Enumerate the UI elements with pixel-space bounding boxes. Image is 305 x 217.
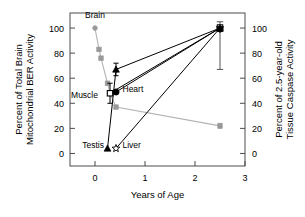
y-tick-label-left: 80 xyxy=(54,49,64,59)
x-tick-label: 0 xyxy=(92,173,97,183)
y-tick-label-right: 100 xyxy=(252,24,267,34)
y-tick-label-left: 60 xyxy=(54,74,64,84)
data-point-brain xyxy=(97,47,101,51)
series-label-brain: Brain xyxy=(85,10,105,20)
data-point-testis xyxy=(113,66,120,72)
y-axis-title-left-line2: Mitochondrial BER Activity xyxy=(24,34,35,145)
y-tick-label-right: 60 xyxy=(252,74,262,84)
data-point-heart xyxy=(113,89,119,95)
data-point-endpoint-heart xyxy=(217,26,223,32)
data-point-testis xyxy=(104,145,111,151)
y-tick-label-left: 40 xyxy=(54,99,64,109)
x-tick-label: 1 xyxy=(142,173,147,183)
scatter-plot: 0123Years of Age020406080100Percent of T… xyxy=(0,0,305,217)
data-point-muscle xyxy=(107,91,112,96)
data-point-brain xyxy=(93,26,98,31)
series-label-liver: Liver xyxy=(123,140,142,150)
data-point-brain xyxy=(218,124,222,128)
data-point-brain xyxy=(99,56,103,60)
y-axis-title-right-line1: Percent of 2.5-year-old xyxy=(273,41,284,138)
series-label-heart: Heart xyxy=(123,84,144,94)
y-tick-label-right: 80 xyxy=(252,49,262,59)
x-tick-label: 2 xyxy=(192,173,197,183)
series-line-heart xyxy=(116,28,220,92)
y-axis-title-left-line1: Percent of Total Brain xyxy=(13,44,24,135)
chart-figure: 0123Years of Age020406080100Percent of T… xyxy=(0,0,305,217)
series-label-muscle: Muscle xyxy=(71,90,98,100)
y-tick-label-right: 0 xyxy=(252,149,257,159)
data-point-brain xyxy=(114,105,118,109)
series-label-testis: Testis xyxy=(82,140,104,150)
y-tick-label-left: 100 xyxy=(49,24,64,34)
y-tick-label-right: 40 xyxy=(252,99,262,109)
series-line-brain xyxy=(95,28,220,126)
x-axis-title: Years of Age xyxy=(131,189,185,200)
y-tick-label-left: 20 xyxy=(54,124,64,134)
y-axis-title-right-line2: Tissue Caspase Activity xyxy=(284,39,295,139)
y-tick-label-left: 0 xyxy=(59,149,64,159)
y-tick-label-right: 20 xyxy=(252,124,262,134)
x-tick-label: 3 xyxy=(242,173,247,183)
